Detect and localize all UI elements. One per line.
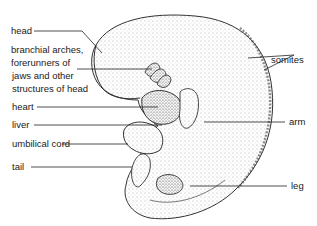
- label-arm: arm: [289, 116, 305, 128]
- label-branchial-3: jaws and other: [12, 70, 74, 82]
- embryo-illustration: [0, 0, 317, 226]
- label-tail: tail: [12, 161, 24, 173]
- label-branchial-2: forerunners of: [11, 57, 70, 69]
- label-head: head: [11, 25, 32, 37]
- label-branchial-1: branchial arches,: [11, 44, 83, 56]
- label-liver: liver: [12, 119, 29, 131]
- embryo-diagram: head branchial arches, forerunners of ja…: [0, 0, 317, 226]
- label-umbilical-cord: umbilical cord: [12, 138, 70, 150]
- label-branchial-4: structures of head: [12, 83, 88, 95]
- leg-bud: [156, 175, 182, 195]
- label-heart: heart: [12, 101, 34, 113]
- label-somites: somites: [271, 54, 304, 66]
- label-leg: leg: [291, 180, 304, 192]
